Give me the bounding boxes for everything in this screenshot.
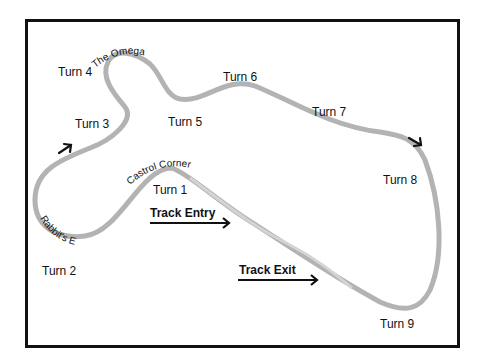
track-entry-label: Track Entry <box>150 207 215 219</box>
turn-1-label: Turn 1 <box>153 184 187 196</box>
turn-6-label: Turn 6 <box>223 71 257 83</box>
rabbits-ear-label: Rabbit's Ear <box>0 0 78 247</box>
turn-2-label: Turn 2 <box>42 265 76 277</box>
turn-3-label: Turn 3 <box>75 118 109 130</box>
track-exit-label: Track Exit <box>239 264 296 276</box>
direction-arrow-left-icon <box>59 144 71 153</box>
track-path <box>35 53 439 308</box>
turn-7-label: Turn 7 <box>312 106 346 118</box>
turn-8-label: Turn 8 <box>383 174 417 186</box>
turn-5-label: Turn 5 <box>168 116 202 128</box>
turn-4-label: Turn 4 <box>58 66 92 78</box>
turn-9-label: Turn 9 <box>380 318 414 330</box>
